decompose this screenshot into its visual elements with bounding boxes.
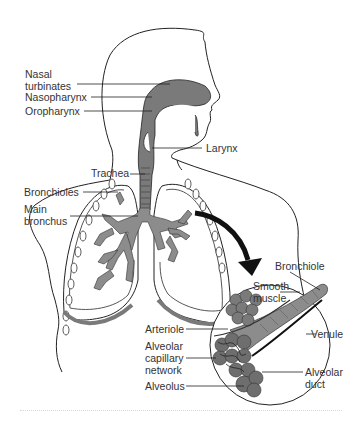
upper-airway (138, 80, 210, 210)
label-alveolar-capillary-network: Alveolar capillary network (145, 340, 184, 376)
label-bronchioles: Bronchioles (24, 186, 79, 198)
label-nasopharynx: Nasopharynx (25, 91, 87, 103)
label-alveolus: Alveolus (145, 380, 185, 392)
label-bronchiole: Bronchiole (275, 260, 325, 272)
label-alveolar-duct: Alveolar duct (305, 366, 343, 390)
label-trachea: Trachea (91, 167, 129, 179)
zoom-arrow (195, 213, 262, 276)
label-smooth-muscle: Smooth muscle (253, 280, 289, 304)
label-arteriole: Arteriole (145, 323, 184, 335)
label-venule: Venule (311, 328, 343, 340)
label-oropharynx: Oropharynx (25, 105, 80, 117)
label-main-bronchus: Main bronchus (24, 203, 67, 227)
label-larynx: Larynx (206, 142, 238, 154)
label-nasal-turbinates: Nasal turbinates (25, 68, 71, 92)
bottom-divider (20, 410, 342, 411)
